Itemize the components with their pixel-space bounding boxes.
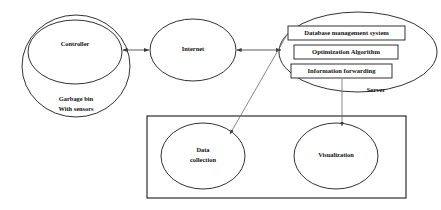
garbage-bin-label-line1: Garbage bin (59, 95, 94, 102)
controller-label: Controller (61, 40, 90, 47)
data-collection-label-line1: Data (196, 146, 210, 153)
diagram-canvas: Controller Garbage bin With sensors Inte… (0, 0, 441, 210)
server-label: Server (367, 86, 386, 93)
application-container-rect[interactable] (147, 116, 406, 198)
connector-database-data-collection (230, 33, 288, 134)
controller-ellipse[interactable] (28, 20, 122, 84)
optimization-algorithm-label: Optimization Algorithm (312, 48, 380, 55)
information-forwarding-label: Information forwarding (308, 67, 377, 74)
data-collection-label-line2: collection (190, 156, 216, 163)
visualization-label: Visualization (318, 151, 354, 158)
database-management-system-label: Database management system (304, 29, 389, 36)
garbage-bin-label-line2: With sensors (58, 105, 94, 112)
architecture-diagram: Controller Garbage bin With sensors Inte… (0, 0, 441, 210)
internet-label: Internet (182, 45, 205, 52)
